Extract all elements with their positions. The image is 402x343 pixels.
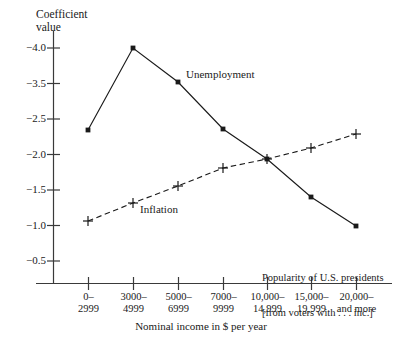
chart-container: Coefficientvalue bbox=[0, 0, 402, 343]
chart-annotation-line-2: [from voters with . . . inc.] bbox=[262, 307, 384, 319]
chart-annotation-line-1: Popularity of U.S. presidents bbox=[262, 272, 384, 284]
x-tick-label-0-line-1: 0– bbox=[83, 291, 94, 302]
x-tick-label-1-line-2: 4999 bbox=[123, 303, 144, 314]
y-tick-label-5: −1.0 bbox=[12, 219, 46, 231]
y-tick-label-3: −2.0 bbox=[12, 148, 46, 160]
y-tick-label-2: −2.5 bbox=[12, 112, 46, 124]
x-tick-label-3-line-1: 7000– bbox=[210, 291, 236, 302]
series-label-inflation: Inflation bbox=[140, 203, 178, 215]
x-tick-label-1-line-1: 3000– bbox=[120, 291, 146, 302]
y-tick-label-4: −1.5 bbox=[12, 183, 46, 195]
y-tick-label-1: −3.5 bbox=[12, 77, 46, 89]
x-tick-label-3-line-2: 9999 bbox=[213, 303, 234, 314]
x-axis-title: Nominal income in $ per year bbox=[0, 320, 402, 332]
y-tick-label-0: −4.0 bbox=[12, 41, 46, 53]
series-inflation-line bbox=[88, 134, 356, 221]
x-tick-label-2-line-1: 5000– bbox=[165, 291, 191, 302]
x-tick-label-2-line-2: 6999 bbox=[168, 303, 189, 314]
series-label-unemployment: Unemployment bbox=[186, 68, 254, 80]
x-tick-label-0-line-2: 2999 bbox=[78, 303, 99, 314]
series-inflation bbox=[83, 129, 361, 226]
y-tick-label-6: −0.5 bbox=[12, 254, 46, 266]
series-inflation-markers bbox=[83, 129, 361, 226]
